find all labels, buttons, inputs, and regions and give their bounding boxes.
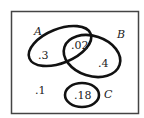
region-a-and-b-value: .02 <box>71 39 89 52</box>
region-a-only-value: .3 <box>38 49 49 62</box>
set-b-label: B <box>116 28 125 41</box>
region-outside-value: .1 <box>35 84 46 97</box>
set-b-ellipse <box>58 28 126 84</box>
region-c-only-value: .18 <box>74 89 92 102</box>
set-a-label: A <box>33 25 42 38</box>
region-b-only-value: .4 <box>98 57 109 70</box>
set-c-label: C <box>104 88 113 101</box>
venn-diagram: A B C .3 .02 .4 .1 .18 <box>0 0 144 118</box>
